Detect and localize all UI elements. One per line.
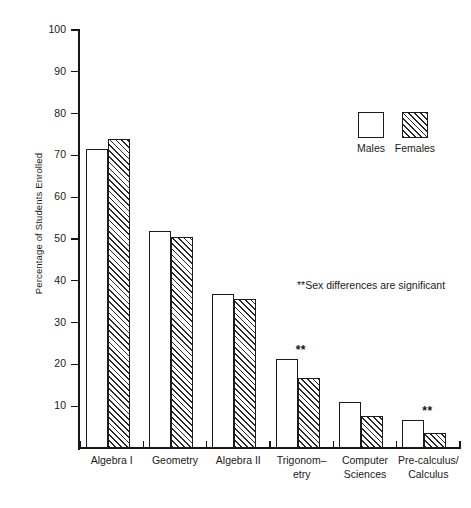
legend-label-females: Females — [390, 142, 440, 154]
y-axis-tick-label: 40 — [22, 274, 66, 286]
y-axis-tick-label: 10 — [22, 399, 66, 411]
y-axis-tick — [71, 406, 79, 407]
y-axis-tick-label: 80 — [22, 107, 66, 119]
y-axis-tick-label: 30 — [22, 316, 66, 328]
y-axis-tick — [71, 322, 79, 323]
legend-swatch-males — [358, 112, 384, 138]
bar-males — [86, 149, 108, 448]
plot-area — [80, 30, 460, 448]
legend-swatch-females — [402, 112, 428, 138]
y-axis-tick — [71, 155, 79, 156]
y-axis-tick — [71, 29, 79, 30]
x-axis-category-label: Pre-calculus/Calculus — [391, 454, 466, 481]
y-axis-tick — [71, 113, 79, 114]
legend-label-males: Males — [348, 142, 394, 154]
bar-males — [149, 231, 171, 448]
y-axis-tick-label: 70 — [22, 148, 66, 160]
y-axis-tick — [71, 364, 79, 365]
bar-females — [298, 378, 320, 448]
bar-females — [361, 416, 383, 448]
y-axis-tick — [71, 280, 79, 281]
y-axis-tick — [71, 197, 79, 198]
category-label-line: Pre-calculus/ — [391, 454, 466, 468]
y-axis-tick-label: 60 — [22, 190, 66, 202]
bar-males — [212, 294, 234, 448]
category-label-line: Calculus — [391, 468, 466, 482]
bar-chart: Percentage of Students Enrolled 10090807… — [0, 0, 471, 508]
y-axis-tick-label: 20 — [22, 357, 66, 369]
y-axis-tick-label: 90 — [22, 65, 66, 77]
significance-marker: ** — [422, 405, 432, 417]
bar-females — [424, 433, 446, 448]
y-axis-tick-label: 100 — [22, 23, 66, 35]
bar-males — [402, 420, 424, 448]
bar-females — [171, 237, 193, 448]
y-axis-tick — [71, 71, 79, 72]
bar-males — [276, 359, 298, 448]
bar-males — [339, 402, 361, 448]
significance-annotation: **Sex differences are significant — [297, 279, 445, 291]
y-axis-tick-label: 50 — [22, 232, 66, 244]
bar-females — [108, 139, 130, 448]
y-axis-tick — [71, 238, 79, 239]
bar-females — [234, 299, 256, 448]
significance-marker: ** — [296, 344, 306, 356]
